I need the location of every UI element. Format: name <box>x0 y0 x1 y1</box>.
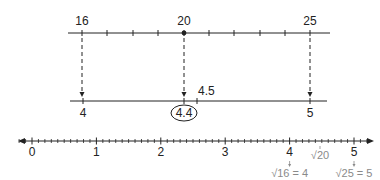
top-tick-label: 25 <box>303 14 317 28</box>
middle-tick-label-4-5: 4.5 <box>198 84 215 98</box>
arrowhead-down-icon <box>182 92 187 97</box>
circled-answer-label: 4.4 <box>176 106 193 120</box>
bottom-tick-label: 4 <box>286 145 293 159</box>
sqrt-20-annotation: √20 <box>311 149 329 161</box>
top-tick-label: 16 <box>75 14 89 28</box>
sqrt-annotation: √16 = 4 <box>271 167 308 179</box>
arrowhead-down-icon <box>308 92 313 97</box>
bottom-tick-label: 1 <box>93 145 100 159</box>
bottom-tick-label: 0 <box>29 145 36 159</box>
top-number-line-16-to-25: 162025 <box>68 14 330 36</box>
middle-tick-label: 4 <box>80 106 87 120</box>
top-tick-label: 20 <box>177 14 191 28</box>
sqrt-annotation: √25 = 5 <box>336 167 373 179</box>
dashed-mapping-arrows <box>80 38 313 97</box>
bottom-number-line-0-to-5: 012345√16 = 4√20√25 = 5 <box>18 138 374 180</box>
bottom-tick-label: 5 <box>351 145 358 159</box>
bottom-tick-label: 2 <box>157 145 164 159</box>
middle-tick-label: 5 <box>307 106 314 120</box>
middle-number-line-4-to-5: 44.44.55 <box>70 84 327 121</box>
point-20-dot <box>182 31 187 36</box>
arrowhead-down-icon <box>80 92 85 97</box>
number-line-diagram: 162025 44.44.55 012345√16 = 4√20√25 = 5 <box>0 0 380 179</box>
bottom-tick-label: 3 <box>222 145 229 159</box>
arrow-right-icon <box>367 138 374 144</box>
